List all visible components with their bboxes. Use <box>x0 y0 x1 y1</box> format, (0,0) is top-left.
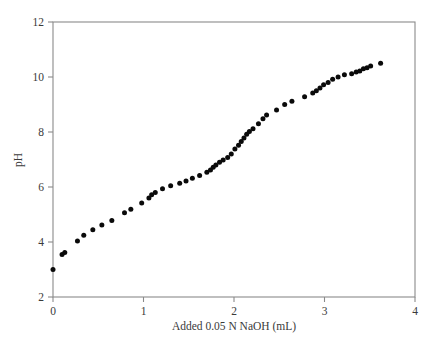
data-point <box>251 126 256 131</box>
data-point <box>274 108 279 113</box>
data-point <box>153 190 158 195</box>
data-point <box>232 147 237 152</box>
y-tick-label: 2 <box>38 291 44 303</box>
y-tick-label: 12 <box>33 16 45 28</box>
y-tick-label: 10 <box>33 71 45 83</box>
x-tick-label: 4 <box>412 305 418 317</box>
data-point <box>225 155 230 160</box>
data-point <box>122 210 127 215</box>
x-axis-ticks: 01234 <box>50 297 418 317</box>
data-point <box>289 99 294 104</box>
data-point <box>342 72 347 77</box>
titration-curve-figure: 24681012 01234 Added 0.05 N NaOH (mL) pH <box>0 0 436 340</box>
data-point <box>160 186 165 191</box>
data-point <box>51 267 56 272</box>
plot-frame <box>53 22 415 297</box>
data-point <box>190 176 195 181</box>
data-point <box>62 250 67 255</box>
data-point <box>184 178 189 183</box>
x-tick-label: 1 <box>141 305 147 317</box>
data-point <box>256 121 261 126</box>
data-point <box>260 116 265 121</box>
data-point <box>321 82 326 87</box>
data-point <box>282 102 287 107</box>
data-point <box>349 71 354 76</box>
data-point <box>264 112 269 117</box>
y-tick-label: 8 <box>38 126 44 138</box>
x-axis-title: Added 0.05 N NaOH (mL) <box>172 320 296 333</box>
data-point <box>128 207 133 212</box>
data-point <box>197 173 202 178</box>
data-point <box>168 183 173 188</box>
data-point-series <box>51 61 384 272</box>
y-axis-title: pH <box>12 153 25 167</box>
data-point <box>378 61 383 66</box>
data-point <box>368 64 373 69</box>
y-tick-label: 4 <box>38 236 44 248</box>
data-point <box>81 233 86 238</box>
data-point <box>75 238 80 243</box>
data-point <box>90 227 95 232</box>
data-point <box>109 218 114 223</box>
x-tick-label: 2 <box>231 305 237 317</box>
axes-frame <box>53 22 415 297</box>
x-tick-label: 3 <box>322 305 328 317</box>
x-tick-label: 0 <box>50 305 56 317</box>
data-point <box>326 80 331 85</box>
data-point <box>177 181 182 186</box>
data-point <box>330 77 335 82</box>
data-point <box>229 152 234 157</box>
chart-canvas: 24681012 01234 Added 0.05 N NaOH (mL) pH <box>0 0 436 340</box>
data-point <box>99 222 104 227</box>
data-point <box>302 94 307 99</box>
data-point <box>221 158 226 163</box>
data-point <box>139 200 144 205</box>
y-tick-label: 6 <box>38 181 44 193</box>
data-point <box>336 75 341 80</box>
y-axis-ticks: 24681012 <box>33 16 54 303</box>
